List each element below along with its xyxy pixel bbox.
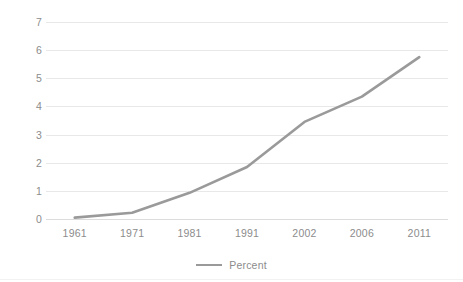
y-tick-label: 5 (8, 73, 42, 84)
x-tick-label: 2002 (292, 228, 316, 239)
bottom-divider (0, 279, 463, 280)
y-tick-label: 2 (8, 158, 42, 169)
chart-legend: Percent (0, 256, 463, 274)
x-tick-label: 2006 (350, 228, 374, 239)
y-tick-label: 1 (8, 186, 42, 197)
gridline-5 (46, 78, 448, 79)
gridline-3 (46, 135, 448, 136)
x-tick-label: 1991 (235, 228, 259, 239)
x-axis-tick-labels: 1961197119811991200220062011 (46, 228, 448, 244)
gridline-7 (46, 22, 448, 23)
gridline-6 (46, 50, 448, 51)
y-tick-label: 0 (8, 214, 42, 225)
gridline-1 (46, 191, 448, 192)
gridline-4 (46, 106, 448, 107)
plot-area (46, 22, 448, 219)
legend-swatch-percent (196, 264, 222, 267)
y-tick-label: 4 (8, 101, 42, 112)
x-tick-label: 1961 (63, 228, 87, 239)
x-tick-label: 1981 (177, 228, 201, 239)
y-tick-label: 3 (8, 130, 42, 141)
legend-label-percent: Percent (229, 260, 267, 271)
x-tick-label: 2011 (408, 228, 431, 239)
x-tick-label: 1971 (120, 228, 144, 239)
gridline-0 (46, 219, 448, 220)
y-tick-label: 7 (8, 17, 42, 28)
y-tick-label: 6 (8, 45, 42, 56)
gridline-2 (46, 163, 448, 164)
line-chart: 01234567 1961197119811991200220062011 Pe… (0, 0, 463, 282)
y-axis-tick-labels: 01234567 (0, 0, 42, 282)
